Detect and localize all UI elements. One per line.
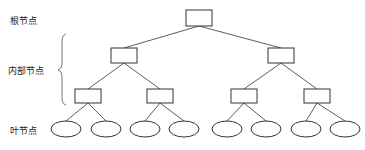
tree-edge <box>227 103 244 121</box>
root-node <box>186 10 212 26</box>
leaf-node <box>130 121 160 137</box>
tree-edge <box>88 103 106 121</box>
tree-edge <box>306 103 317 121</box>
leaf-node <box>330 121 360 137</box>
leaf-node <box>91 121 121 137</box>
tree-edge <box>317 103 345 121</box>
internal-node <box>268 48 294 63</box>
leaf-node <box>251 121 281 137</box>
tree-edge <box>160 103 184 121</box>
tree-edge <box>124 63 160 89</box>
brace-icon <box>58 34 66 105</box>
internal-node <box>147 89 173 103</box>
tree-edge <box>66 103 88 121</box>
internal-node <box>111 48 137 63</box>
tree-nodes <box>51 10 360 137</box>
tree-edge <box>244 103 266 121</box>
internal-node <box>231 89 257 103</box>
tree-edge <box>281 63 317 89</box>
leaf-node <box>51 121 81 137</box>
leaf-node <box>291 121 321 137</box>
tree-edge <box>145 103 160 121</box>
leaf-node <box>212 121 242 137</box>
tree-edge <box>124 26 199 48</box>
tree-edge <box>244 63 281 89</box>
tree-edge <box>88 63 124 89</box>
leaf-node <box>169 121 199 137</box>
tree-edges <box>66 26 345 121</box>
tree-diagram <box>0 0 365 150</box>
internal-node <box>304 89 330 103</box>
internal-node <box>75 89 101 103</box>
tree-edge <box>199 26 281 48</box>
